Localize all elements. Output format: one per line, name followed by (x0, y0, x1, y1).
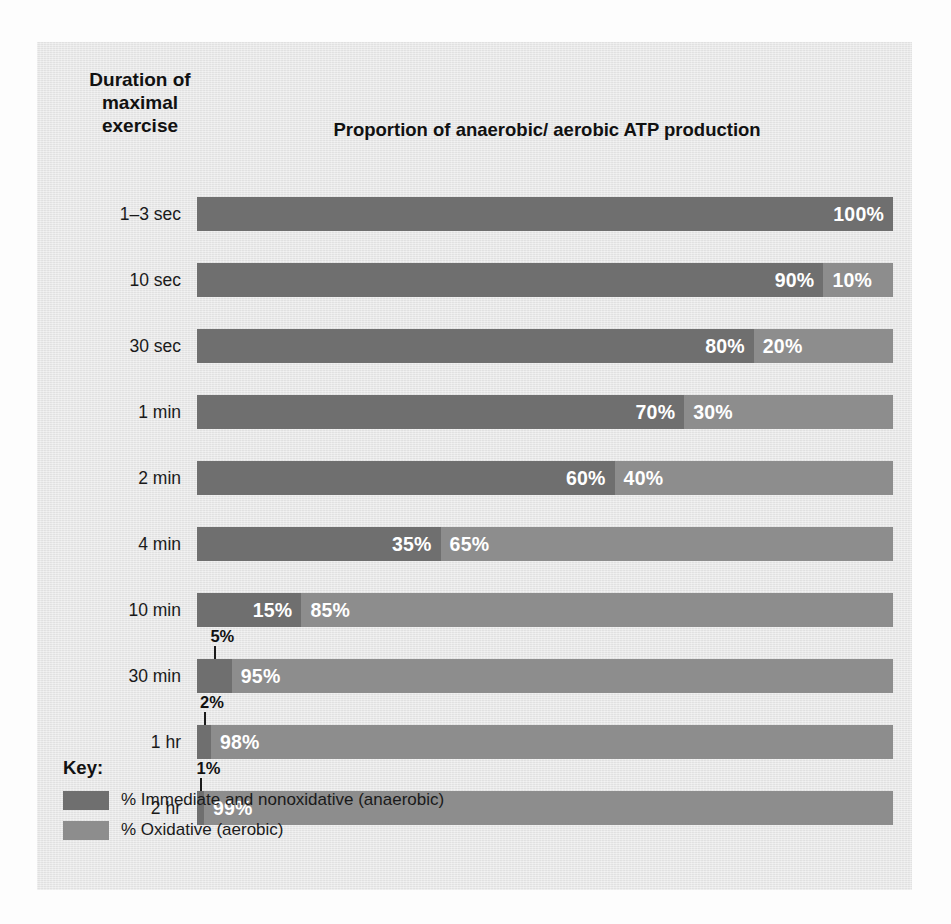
bar-segment-aerobic: 65% (441, 527, 893, 561)
bar-track: 90%10% (197, 263, 893, 297)
bar-segment-aerobic-label: 65% (441, 533, 499, 556)
bar-segment-anaerobic: 90% (197, 263, 823, 297)
bar-segment-anaerobic (197, 725, 211, 759)
bar-row: 30 min95% (37, 659, 912, 693)
bar-segment-aerobic: 40% (615, 461, 893, 495)
bar-segment-anaerobic-label: 100% (824, 203, 893, 226)
bar-row: 1 min70%30% (37, 395, 912, 429)
bar-segment-aerobic: 10% (823, 263, 893, 297)
legend: Key: % Immediate and nonoxidative (anaer… (63, 757, 763, 847)
bar-row-category-label: 1–3 sec (37, 197, 181, 231)
bar-segment-aerobic-label: 95% (232, 665, 290, 688)
bar-row-category-label: 30 min (37, 659, 181, 693)
bar-segment-anaerobic: 100% (197, 197, 893, 231)
bar-segment-anaerobic: 60% (197, 461, 615, 495)
bar-row: 10 sec90%10% (37, 263, 912, 297)
bar-segment-anaerobic: 15% (197, 593, 301, 627)
anaerobic-callout-label: 5% (210, 627, 234, 646)
bar-segment-aerobic: 85% (301, 593, 893, 627)
bar-segment-anaerobic-label: 80% (696, 335, 754, 358)
legend-swatch-anaerobic (63, 791, 109, 810)
bar-track: 95% (197, 659, 893, 693)
bar-row: 4 min35%65% (37, 527, 912, 561)
bar-segment-anaerobic-label: 35% (383, 533, 441, 556)
bar-row: 2 min60%40% (37, 461, 912, 495)
bar-row: 1 hr98% (37, 725, 912, 759)
bar-segment-aerobic: 98% (211, 725, 893, 759)
bar-segment-anaerobic-label: 15% (244, 599, 302, 622)
bar-segment-aerobic-label: 40% (615, 467, 673, 490)
bar-track: 60%40% (197, 461, 893, 495)
bar-segment-anaerobic: 80% (197, 329, 754, 363)
bar-segment-anaerobic-label: 60% (557, 467, 615, 490)
bar-row: 30 sec80%20% (37, 329, 912, 363)
bar-segment-aerobic: 95% (232, 659, 893, 693)
bar-track: 70%30% (197, 395, 893, 429)
bar-segment-anaerobic-label: 70% (627, 401, 685, 424)
bar-track: 35%65% (197, 527, 893, 561)
bar-segment-anaerobic: 35% (197, 527, 441, 561)
bar-track: 98% (197, 725, 893, 759)
bar-track: 15%85% (197, 593, 893, 627)
bar-row-category-label: 10 sec (37, 263, 181, 297)
legend-label-anaerobic: % Immediate and nonoxidative (anaerobic) (121, 790, 444, 810)
legend-swatch-aerobic (63, 821, 109, 840)
bar-row: 1–3 sec100% (37, 197, 912, 231)
legend-title: Key: (63, 757, 763, 779)
bar-row-category-label: 4 min (37, 527, 181, 561)
bar-segment-aerobic-label: 10% (823, 269, 881, 292)
bar-segment-anaerobic (197, 659, 232, 693)
legend-item-aerobic: % Oxidative (aerobic) (63, 817, 763, 843)
bar-track: 100% (197, 197, 893, 231)
bar-row: 10 min15%85% (37, 593, 912, 627)
bar-segment-aerobic: 20% (754, 329, 893, 363)
bar-row-category-label: 30 sec (37, 329, 181, 363)
bar-segment-aerobic: 30% (684, 395, 893, 429)
bar-track: 80%20% (197, 329, 893, 363)
bar-segment-anaerobic: 70% (197, 395, 684, 429)
figure-panel: Duration of maximal exercise Proportion … (37, 42, 912, 890)
bar-segment-aerobic-label: 20% (754, 335, 812, 358)
bar-row-category-label: 1 min (37, 395, 181, 429)
legend-label-aerobic: % Oxidative (aerobic) (121, 820, 284, 840)
bar-segment-aerobic-label: 85% (301, 599, 359, 622)
bar-segment-anaerobic-label: 90% (766, 269, 824, 292)
legend-item-anaerobic: % Immediate and nonoxidative (anaerobic) (63, 787, 763, 813)
bar-segment-aerobic-label: 98% (211, 731, 269, 754)
bar-row-category-label: 2 min (37, 461, 181, 495)
bar-row-category-label: 1 hr (37, 725, 181, 759)
bar-row-category-label: 10 min (37, 593, 181, 627)
bar-segment-aerobic-label: 30% (684, 401, 742, 424)
anaerobic-callout-label: 2% (200, 693, 224, 712)
plot-area: 1–3 sec100%10 sec90%10%30 sec80%20%1 min… (37, 42, 912, 742)
